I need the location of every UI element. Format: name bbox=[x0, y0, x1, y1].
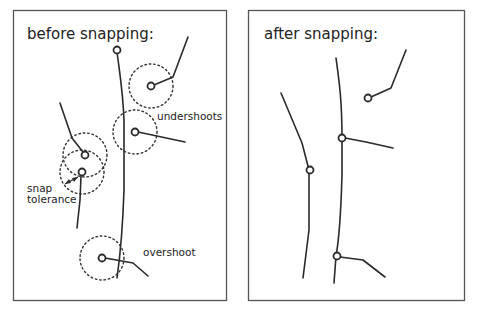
tolerance-label: tolerance bbox=[27, 193, 77, 205]
left-lower-endpoint bbox=[79, 169, 86, 176]
undershoot-endpoint-top bbox=[148, 83, 155, 90]
trimmed-overshoot-node bbox=[334, 253, 341, 260]
left-upper-endpoint bbox=[82, 152, 89, 159]
merged-left-node bbox=[307, 167, 314, 174]
snapped-node-middle bbox=[339, 135, 346, 142]
undershoot-endpoint-middle bbox=[132, 129, 139, 136]
overshoot-label: overshoot bbox=[143, 246, 196, 258]
panel-after-snapping: after snapping: bbox=[249, 11, 465, 301]
unsnapped-endpoint-top bbox=[365, 95, 372, 102]
undershoots-label: undershoots bbox=[157, 110, 222, 122]
snapping-diagram: before snapping: undershoots snap tolera… bbox=[0, 0, 478, 311]
overshoot-endpoint bbox=[99, 255, 106, 262]
panel-after-title: after snapping: bbox=[264, 25, 378, 43]
panel-before-title: before snapping: bbox=[27, 25, 154, 43]
main-line-top-endpoint bbox=[114, 47, 121, 54]
panel-before-snapping: before snapping: undershoots snap tolera… bbox=[14, 11, 227, 301]
panel-after-frame bbox=[249, 11, 465, 301]
